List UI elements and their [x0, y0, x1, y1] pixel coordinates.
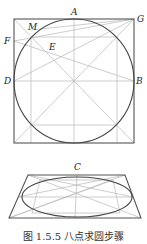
label-G: G: [137, 14, 144, 24]
label-A: A: [70, 7, 78, 17]
label-M: M: [27, 22, 38, 32]
construction-lines: [14, 19, 134, 143]
label-C: C: [74, 162, 81, 172]
label-F: F: [3, 36, 11, 46]
top-figure: A G M F E D B: [3, 7, 144, 143]
label-B: B: [135, 76, 143, 86]
bottom-figure: C: [9, 162, 141, 218]
diagram-canvas: A G M F E D B C: [0, 0, 147, 244]
label-D: D: [3, 76, 11, 86]
figure-caption: 图 1.5.5 八点求圆步骤: [0, 228, 147, 243]
perspective-construction-lines: [9, 175, 141, 218]
label-E: E: [48, 42, 56, 52]
